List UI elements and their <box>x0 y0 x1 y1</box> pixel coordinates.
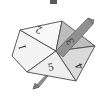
spinner-diagram: 1 2 3 4 5 <box>0 0 112 96</box>
figure-canvas: 1 2 3 4 5 <box>0 0 112 96</box>
crop-artifact <box>50 0 57 4</box>
